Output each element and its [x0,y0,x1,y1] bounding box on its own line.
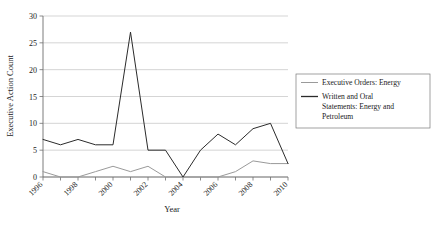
y-tick-label: 30 [29,12,37,21]
y-tick-label: 25 [29,39,37,48]
legend-label-1: Statements: Energy and [322,102,394,111]
x-tick-label: 2004 [167,180,185,198]
y-tick-label: 5 [33,146,37,155]
x-tick-label: 1998 [62,180,80,198]
x-tick-label: 2000 [97,180,115,198]
x-tick-label: 2010 [272,180,290,198]
x-tick-label: 2008 [237,180,255,198]
y-axis-tick-labels: 051015202530 [29,12,37,182]
y-tick-label: 20 [29,66,37,75]
x-tick-label: 1996 [27,180,45,198]
x-tick-label: 2006 [202,180,220,198]
series-line-1 [43,32,288,177]
y-axis-title: Executive Action Count [5,55,15,137]
x-axis-tick-labels: 19961998200020022004200620082010 [27,180,290,198]
chart-figure: 051015202530 199619982000200220042006200… [0,0,436,229]
legend-label-1: Written and Oral [322,92,373,101]
y-tick-label: 10 [29,119,37,128]
x-axis-title: Year [164,204,180,214]
gridlines [43,16,288,177]
y-tick-label: 15 [29,93,37,102]
x-tick-label: 2002 [132,180,150,198]
legend-label-1: Petroleum [322,112,353,121]
data-series [43,32,288,177]
legend-label-0: Executive Orders: Energy [322,78,401,87]
series-line-0 [43,161,288,177]
line-chart: 051015202530 199619982000200220042006200… [0,0,436,229]
chart-legend: Executive Orders: EnergyWritten and Oral… [296,74,430,128]
y-axis-ticks [40,16,44,177]
x-axis-ticks [43,177,288,181]
